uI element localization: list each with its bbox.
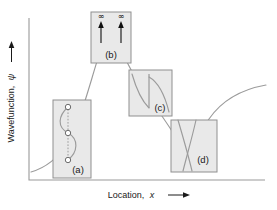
- y-axis-label-group: Wavefunction, ψ: [6, 73, 16, 142]
- y-axis-label-text: Wavefunction,: [6, 86, 16, 143]
- y-axis-label-symbol: ψ: [6, 73, 16, 80]
- figure-canvas: Wavefunction, ψ Location, x: [0, 0, 277, 210]
- inset-a-label: (a): [72, 164, 84, 175]
- inset-c-group: (c): [129, 70, 172, 116]
- inset-b-label: (b): [105, 49, 117, 60]
- x-axis-arrow-head-icon: [183, 192, 190, 198]
- x-axis-label-text: Location,: [108, 190, 145, 200]
- inset-b-infinity-right: ∞: [118, 12, 125, 21]
- wavefunction-figure: Wavefunction, ψ Location, x: [0, 0, 277, 210]
- inset-d-group: (d): [171, 120, 217, 172]
- inset-d-label: (d): [197, 154, 209, 165]
- y-axis-arrow-head-icon: [9, 41, 15, 48]
- inset-a-group: (a): [53, 100, 91, 178]
- inset-c-label: (c): [154, 102, 165, 113]
- inset-a-node-marker: [65, 157, 70, 162]
- y-axis-arrow-group: [9, 41, 15, 62]
- inset-a-node-marker: [65, 130, 70, 135]
- inset-c-box: [129, 70, 172, 116]
- inset-b-infinity-left: ∞: [98, 12, 105, 21]
- inset-a-node-marker: [65, 104, 70, 109]
- inset-b-group: ∞ ∞ (b): [91, 12, 131, 63]
- y-axis-label: Wavefunction, ψ: [6, 73, 16, 142]
- x-axis-label: Location, x: [108, 190, 155, 200]
- x-axis-label-group: Location, x: [108, 190, 190, 200]
- x-axis-label-symbol: x: [149, 190, 155, 200]
